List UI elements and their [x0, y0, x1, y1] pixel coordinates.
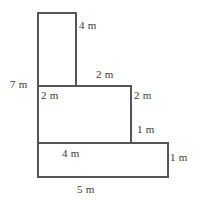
label-inner-bottom-segment: 4 m	[62, 148, 79, 159]
label-bottom-side: 5 m	[77, 184, 94, 195]
label-left-side: 7 m	[10, 79, 27, 90]
label-right-lower-drop: 1 m	[137, 124, 154, 135]
polygon-svg	[0, 0, 203, 209]
label-inner-upper-left: 2 m	[41, 90, 58, 101]
label-right-upper-drop: 2 m	[134, 90, 151, 101]
label-upper-middle-segment: 2 m	[96, 69, 113, 80]
label-far-right-drop: 1 m	[170, 152, 187, 163]
label-top-segment: 4 m	[79, 20, 96, 31]
geometry-figure: 4 m 7 m 2 m 2 m 2 m 1 m 4 m 1 m 5 m	[0, 0, 203, 209]
